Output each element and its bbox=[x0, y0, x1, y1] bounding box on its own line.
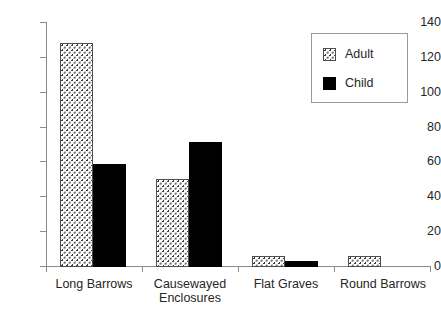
x-axis-group-label-round-barrows: Round Barrows bbox=[332, 277, 434, 291]
group-label-line: Round Barrows bbox=[332, 277, 434, 291]
y-tick-mark bbox=[40, 161, 46, 162]
group-label-line: Long Barrows bbox=[44, 277, 144, 291]
bar-child-causewayed-enclosures bbox=[189, 142, 222, 267]
y-tick-label: 20 bbox=[407, 225, 441, 238]
bar-adult-round-barrows bbox=[348, 256, 381, 267]
x-tick-mark bbox=[142, 266, 143, 272]
legend-label-adult: Adult bbox=[345, 47, 374, 61]
legend-item-child: Child bbox=[323, 76, 374, 90]
x-axis-group-label-causewayed-enclosures: Causewayed Enclosures bbox=[140, 277, 240, 305]
legend-swatch-adult-icon bbox=[323, 48, 336, 61]
group-label-line: Enclosures bbox=[140, 291, 240, 305]
y-tick-mark bbox=[40, 92, 46, 93]
bar-chart: 0 20 40 60 80 100 120 140 Long Barrows C… bbox=[0, 0, 441, 314]
y-tick-mark bbox=[40, 57, 46, 58]
group-label-line: Flat Graves bbox=[236, 277, 336, 291]
bar-child-flat-graves bbox=[285, 261, 318, 267]
bar-adult-flat-graves bbox=[252, 256, 285, 267]
legend-item-adult: Adult bbox=[323, 47, 374, 61]
y-tick-mark bbox=[40, 196, 46, 197]
legend-label-child: Child bbox=[345, 76, 374, 90]
y-tick-mark bbox=[40, 231, 46, 232]
x-axis-group-label-flat-graves: Flat Graves bbox=[236, 277, 336, 291]
y-tick-label: 60 bbox=[407, 155, 441, 168]
group-label-line: Causewayed bbox=[140, 277, 240, 291]
x-tick-mark bbox=[334, 266, 335, 272]
y-tick-label: 40 bbox=[407, 190, 441, 203]
x-tick-mark bbox=[430, 266, 431, 272]
y-tick-label: 120 bbox=[407, 51, 441, 64]
x-tick-mark bbox=[46, 266, 47, 272]
x-tick-mark bbox=[238, 266, 239, 272]
y-tick-label: 80 bbox=[407, 121, 441, 134]
y-tick-label: 140 bbox=[407, 16, 441, 29]
y-tick-label: 100 bbox=[407, 86, 441, 99]
legend: Adult Child bbox=[311, 33, 408, 103]
bar-child-long-barrows bbox=[93, 164, 126, 267]
bar-adult-long-barrows bbox=[60, 43, 93, 267]
bar-adult-causewayed-enclosures bbox=[156, 179, 189, 267]
y-tick-mark bbox=[40, 127, 46, 128]
x-axis-group-label-long-barrows: Long Barrows bbox=[44, 277, 144, 291]
y-axis-line bbox=[46, 22, 47, 267]
y-tick-mark bbox=[40, 22, 46, 23]
legend-swatch-child-icon bbox=[323, 77, 336, 90]
